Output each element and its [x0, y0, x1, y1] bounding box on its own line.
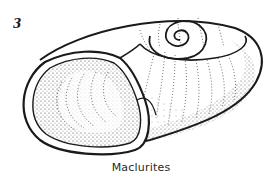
maclurites-shell-illustration [0, 0, 280, 185]
figure-caption: Maclurites [0, 161, 280, 174]
